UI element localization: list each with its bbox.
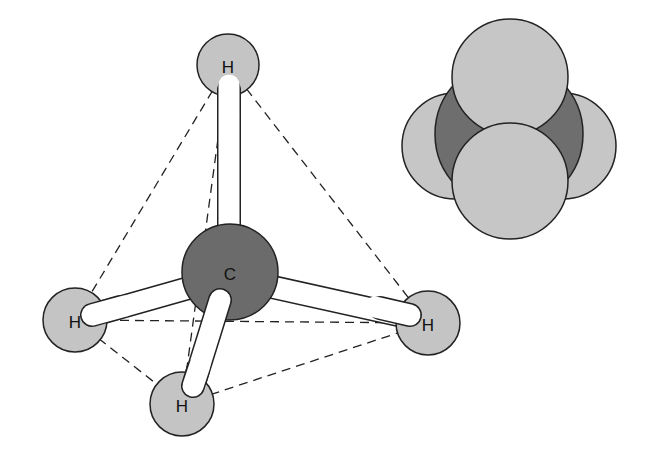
sf-hydrogen-top bbox=[452, 19, 568, 135]
svg-text:C: C bbox=[224, 265, 236, 284]
methane-diagram: C H H H H bbox=[0, 0, 650, 458]
space-filling-model bbox=[402, 19, 616, 239]
svg-text:H: H bbox=[422, 316, 434, 335]
svg-text:H: H bbox=[222, 58, 234, 77]
svg-text:H: H bbox=[69, 313, 81, 332]
svg-text:H: H bbox=[176, 397, 188, 416]
sf-hydrogen-front bbox=[452, 123, 568, 239]
